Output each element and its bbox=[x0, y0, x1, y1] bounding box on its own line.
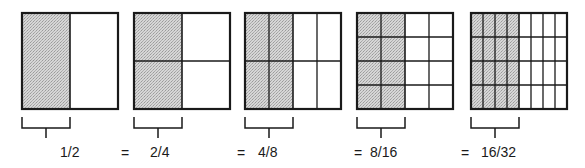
bracket bbox=[245, 117, 293, 138]
bracket bbox=[357, 117, 405, 138]
equals-sign: = bbox=[461, 146, 469, 160]
equals-sign: = bbox=[121, 146, 129, 160]
equals-sign: = bbox=[354, 146, 362, 160]
equals-sign: = bbox=[237, 146, 245, 160]
fraction-label-1-2: 1/2 bbox=[60, 145, 79, 159]
fraction-square-8-16 bbox=[357, 13, 453, 138]
fraction-label-2-4: 2/4 bbox=[150, 145, 169, 159]
fraction-label-8-16: 8/16 bbox=[370, 145, 397, 159]
fraction-diagram bbox=[0, 0, 585, 168]
fraction-square-4-8 bbox=[245, 13, 341, 138]
bracket bbox=[134, 117, 182, 138]
fraction-label-16-32: 16/32 bbox=[481, 145, 516, 159]
fraction-label-4-8: 4/8 bbox=[258, 145, 277, 159]
bracket bbox=[22, 117, 70, 138]
shaded-region bbox=[22, 13, 70, 109]
fraction-square-16-32 bbox=[471, 13, 567, 138]
bracket bbox=[471, 117, 519, 138]
fraction-square-1-2 bbox=[22, 13, 118, 138]
fraction-square-2-4 bbox=[134, 13, 230, 138]
